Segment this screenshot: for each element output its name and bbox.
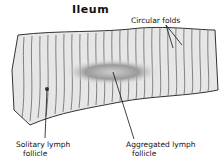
label-aggregated-follicle: follicle xyxy=(132,149,156,158)
label-circular-folds: Circular folds xyxy=(131,16,180,25)
label-solitary-follicle: follicle xyxy=(23,149,47,158)
aggregated-lymph-follicle xyxy=(64,59,160,85)
label-solitary-lymph: Solitary lymph xyxy=(16,140,70,149)
label-aggregated-lymph: Aggregated lymph xyxy=(126,140,196,149)
